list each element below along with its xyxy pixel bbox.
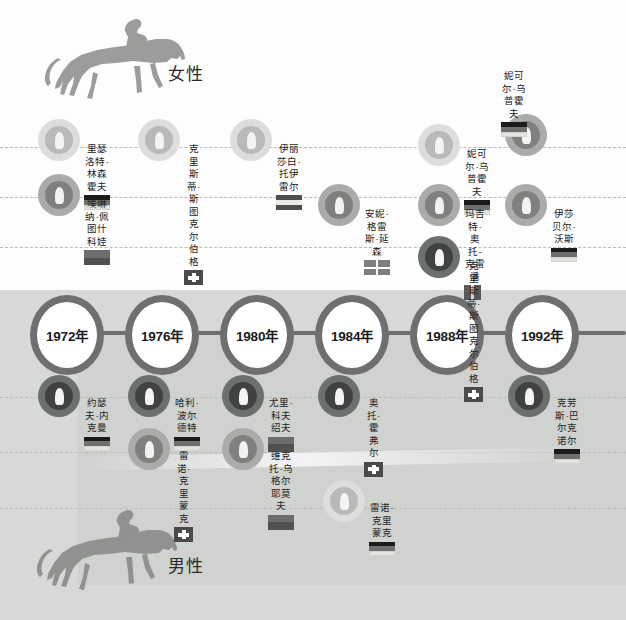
timeline-year-node[interactable]: 1980年 (220, 295, 294, 375)
athlete-name: 雷诺·克里 蒙克 (369, 502, 395, 540)
medal-ring (145, 126, 173, 154)
athlete-name: 克里斯蒂·斯 图克尔伯格 (184, 143, 203, 268)
medal-ring (512, 191, 540, 219)
medal-icon (505, 184, 547, 226)
athlete-name: 妮可尔·乌 普霍夫 (464, 148, 490, 198)
medal-ring (330, 487, 358, 515)
athlete-info: 哈利·波尔 德特 (174, 397, 200, 452)
medal-icon (508, 375, 550, 417)
athlete-info: 埃琳纳·佩 图什科娃 (84, 198, 110, 265)
men-section-caption: 男性 (168, 552, 204, 577)
timeline-year-node[interactable]: 1992年 (505, 295, 579, 375)
athlete-info: 约瑟夫·内 克曼 (84, 397, 110, 452)
medal-ring (45, 181, 73, 209)
torch-icon (522, 197, 531, 214)
flag-swiss (174, 527, 193, 542)
medal-icon (38, 375, 80, 417)
athlete-name: 维克托·乌 格尔耶莫夫 (268, 450, 294, 513)
torch-icon (55, 132, 64, 149)
flag-germany (501, 122, 527, 137)
women-section-caption: 女性 (168, 60, 204, 85)
medal-ring (135, 382, 163, 410)
timeline-year-node[interactable]: 1972年 (30, 295, 104, 375)
medal-ring (325, 191, 353, 219)
medal-icon (138, 119, 180, 161)
medal-icon (38, 119, 80, 161)
torch-icon (55, 187, 64, 204)
torch-icon (247, 132, 256, 149)
athlete-name: 克里斯蒂·斯 图克尔伯格 (464, 260, 483, 385)
torch-icon (239, 388, 248, 405)
athlete-name: 雷诺·克里 蒙克 (174, 450, 193, 525)
athlete-info: 伊莎贝尔· 沃斯 (551, 208, 577, 263)
athlete-info: 克里斯蒂·斯 图克尔伯格 (184, 143, 203, 285)
torch-icon (435, 197, 444, 214)
medal-ring (237, 126, 265, 154)
athlete-name: 伊丽莎白· 托伊雷尔 (276, 143, 302, 193)
athlete-name: 里瑟洛特· 林森霍夫 (84, 143, 110, 193)
athlete-info: 奥托·霍弗尔 (364, 397, 383, 477)
medal-icon (222, 428, 264, 470)
flag-soviet (268, 515, 294, 530)
athlete-info: 尤里·科夫 绍夫 (268, 397, 294, 452)
flag-germany (84, 437, 110, 452)
dressage-horse-men-icon (30, 505, 180, 591)
flag-germany (369, 542, 395, 557)
medal-icon (128, 375, 170, 417)
timeline-year-label: 1988年 (426, 325, 468, 345)
medal-icon (323, 480, 365, 522)
athlete-name: 妮可尔·乌 普霍夫 (501, 70, 527, 120)
medal-ring (515, 382, 543, 410)
athlete-info: 伊丽莎白· 托伊雷尔 (276, 143, 302, 210)
timeline-year-label: 1984年 (331, 325, 373, 345)
medal-ring (425, 243, 453, 271)
medal-icon (418, 236, 460, 278)
athlete-name: 尤里·科夫 绍夫 (268, 397, 294, 435)
torch-icon (55, 388, 64, 405)
athlete-info: 安妮·格雷 斯·延森 (364, 208, 390, 275)
torch-icon (435, 249, 444, 266)
flag-blocks (364, 260, 390, 275)
timeline-year-label: 1992年 (521, 325, 563, 345)
athlete-info: 雷诺·克里 蒙克 (369, 502, 395, 557)
athlete-info: 雷诺·克里 蒙克 (174, 450, 193, 542)
flag-austria-h (276, 195, 302, 210)
medal-icon (418, 184, 460, 226)
athlete-info: 克里斯蒂·斯 图克尔伯格 (464, 260, 483, 402)
guide-line-men-2 (0, 452, 626, 453)
athlete-info: 妮可尔·乌 普霍夫 (501, 70, 527, 137)
medal-ring (229, 435, 257, 463)
timeline-year-label: 1980年 (236, 325, 278, 345)
timeline-year-label: 1976年 (141, 325, 183, 345)
infographic-canvas: 女性 男性 1972年1976年1980年1984年1988年1992年 里瑟洛… (0, 0, 626, 620)
flag-germany (551, 248, 577, 263)
torch-icon (239, 441, 248, 458)
torch-icon (335, 197, 344, 214)
flag-swiss (464, 387, 483, 402)
timeline-year-node[interactable]: 1976年 (125, 295, 199, 375)
athlete-info: 妮可尔·乌 普霍夫 (464, 148, 490, 215)
medal-ring (135, 435, 163, 463)
athlete-name: 哈利·波尔 德特 (174, 397, 200, 435)
torch-icon (145, 441, 154, 458)
medal-icon (230, 119, 272, 161)
medal-icon (222, 375, 264, 417)
medal-ring (325, 382, 353, 410)
athlete-name: 埃琳纳·佩 图什科娃 (84, 198, 110, 248)
medal-ring (45, 382, 73, 410)
torch-icon (155, 132, 164, 149)
medal-icon (38, 174, 80, 216)
timeline-year-node[interactable]: 1984年 (315, 295, 389, 375)
torch-icon (525, 388, 534, 405)
flag-swiss (364, 462, 383, 477)
medal-ring (425, 191, 453, 219)
flag-soviet (84, 250, 110, 265)
athlete-name: 伊莎贝尔· 沃斯 (551, 208, 577, 246)
timeline-year-label: 1972年 (46, 325, 88, 345)
athlete-name: 奥托·霍弗尔 (364, 397, 383, 460)
athlete-name: 约瑟夫·内 克曼 (84, 397, 110, 435)
medal-icon (318, 375, 360, 417)
torch-icon (340, 493, 349, 510)
athlete-info: 维克托·乌 格尔耶莫夫 (268, 450, 294, 530)
athlete-name: 安妮·格雷 斯·延森 (364, 208, 390, 258)
